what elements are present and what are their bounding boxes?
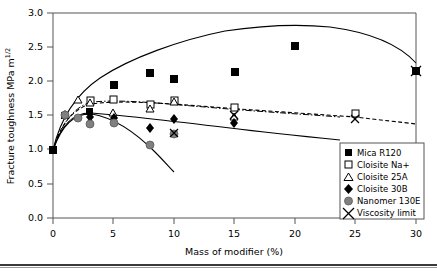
data-point (170, 114, 178, 124)
series-nanomer-130e-markers (61, 111, 178, 149)
y-tick-label: 2.0 (28, 75, 43, 86)
data-point (170, 75, 178, 83)
chart-figure: 3.0 2.5 2.0 1.5 1.0 0.5 0.0 0 5 10 15 20… (0, 0, 437, 271)
filled-square-icon (345, 149, 352, 156)
x-tick-labels: 0 5 10 15 20 25 30 (50, 228, 422, 239)
y-tick-label: 0.5 (28, 178, 43, 189)
series-mica-r120-markers (49, 42, 420, 154)
y-tick-label: 1.5 (28, 109, 43, 120)
legend-item-label: Nanomer 130E (357, 196, 420, 206)
y-axis-ticks (47, 13, 53, 218)
data-point (74, 114, 82, 122)
data-point (291, 42, 299, 50)
data-point (146, 123, 154, 133)
footer-divider (0, 264, 437, 266)
x-tick-label: 10 (168, 228, 180, 239)
y-axis-title: Fracture toughness MPa m1/2 (4, 48, 16, 185)
x-tick-label: 0 (50, 228, 56, 239)
data-point (231, 104, 238, 111)
data-point (231, 68, 239, 76)
x-tick-label: 30 (410, 228, 422, 239)
series-cloisite-na-markers (87, 96, 359, 117)
data-point (49, 146, 57, 154)
legend-item-label: Cloisite Na+ (357, 160, 410, 170)
x-tick-label: 20 (289, 228, 301, 239)
filled-circle-icon (345, 197, 353, 205)
x-tick-label: 5 (110, 228, 116, 239)
data-point (110, 119, 118, 127)
data-point (74, 96, 82, 103)
trendline-mica-r120 (53, 25, 416, 150)
legend-item-label: Cloisite 30B (357, 184, 408, 194)
legend-item-label: Cloisite 25A (357, 172, 408, 182)
legend-item-label: Mica R120 (357, 148, 401, 158)
data-point (86, 120, 94, 128)
footer-divider-secondary (0, 267, 437, 268)
series-viscosity-limit-markers (170, 66, 421, 137)
y-tick-label: 1.0 (28, 143, 43, 154)
open-square-icon (345, 161, 352, 168)
svg-text:Fracture toughness MPa m1/2: Fracture toughness MPa m1/2 (4, 48, 16, 185)
y-tick-label: 3.0 (28, 7, 43, 18)
trendline-cloisite-25a (53, 101, 340, 150)
data-point (61, 111, 69, 119)
y-tick-labels: 3.0 2.5 2.0 1.5 1.0 0.5 0.0 (28, 7, 43, 223)
y-axis-title-superscript: 1/2 (4, 48, 12, 58)
x-tick-label: 25 (349, 228, 361, 239)
legend[interactable]: Mica R120 Cloisite Na+ Cloisite 25A Cloi… (340, 143, 424, 219)
y-tick-label: 2.5 (28, 41, 43, 52)
legend-item-label: Viscosity limit (357, 208, 417, 218)
y-tick-label: 0.0 (28, 212, 43, 223)
data-point (110, 96, 117, 103)
y-axis-title-text: Fracture toughness MPa m (5, 58, 16, 184)
data-point (170, 130, 178, 138)
trendline-cloisite-30b (53, 113, 340, 150)
data-point (146, 69, 154, 77)
data-point (110, 81, 118, 89)
x-axis-title: Mass of modifier (%) (185, 246, 283, 257)
chart-canvas: 3.0 2.5 2.0 1.5 1.0 0.5 0.0 0 5 10 15 20… (0, 0, 437, 271)
data-point (146, 141, 154, 149)
x-tick-label: 15 (228, 228, 240, 239)
